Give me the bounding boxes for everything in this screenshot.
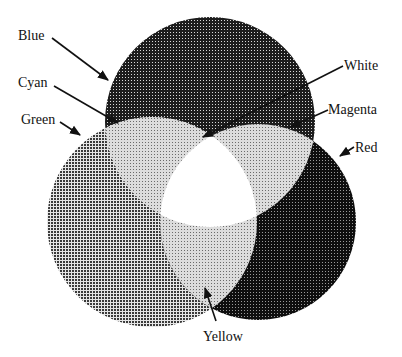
- red-arrow: [340, 147, 354, 156]
- green-arrow: [60, 122, 80, 135]
- label-red: Red: [355, 140, 378, 155]
- venn-diagram: Blue Cyan Green White Magenta Red Yellow: [0, 0, 402, 357]
- label-white: White: [344, 58, 378, 73]
- blue-arrow: [52, 38, 108, 80]
- label-cyan: Cyan: [18, 75, 48, 90]
- label-yellow: Yellow: [203, 329, 244, 344]
- label-green: Green: [21, 112, 55, 127]
- label-magenta: Magenta: [328, 102, 378, 117]
- label-blue: Blue: [18, 28, 44, 43]
